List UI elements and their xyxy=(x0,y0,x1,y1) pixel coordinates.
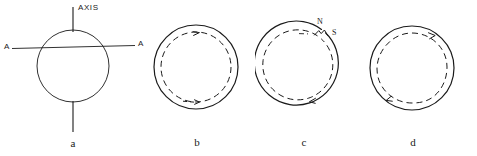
panel-a: AXIS A A a xyxy=(0,0,150,156)
outer-circle-broken xyxy=(255,21,338,105)
axis-label: AXIS xyxy=(78,4,99,12)
panel-caption-c: c xyxy=(295,137,313,148)
south-pole-label: S xyxy=(332,29,336,37)
equator-line xyxy=(12,46,135,49)
north-pole-label: N xyxy=(317,18,323,26)
rotation-arrowhead-top xyxy=(193,32,199,36)
panel-d: d xyxy=(362,0,477,156)
inner-dashed-circle-distorted xyxy=(377,33,447,103)
panel-b-drawing xyxy=(150,0,255,156)
panel-c: N S c xyxy=(255,0,362,156)
rotation-arrowhead-bottom-left xyxy=(386,96,392,101)
panel-d-drawing xyxy=(362,0,477,156)
pole-kink xyxy=(315,30,328,35)
panel-a-drawing xyxy=(0,0,150,156)
panel-caption-a: a xyxy=(64,138,82,149)
panel-caption-b: b xyxy=(188,137,206,148)
figure-canvas: AXIS A A a b xyxy=(0,0,477,156)
outer-circle xyxy=(154,25,238,109)
rotation-arrowhead-top-right xyxy=(429,33,436,39)
equator-label-right: A xyxy=(138,40,144,48)
inner-dashed-circle xyxy=(161,32,231,102)
panel-b: b xyxy=(150,0,255,156)
panel-c-drawing xyxy=(255,0,362,156)
equator-label-left: A xyxy=(4,43,10,51)
sphere-outline xyxy=(37,30,109,102)
inner-dashed-circle xyxy=(263,30,333,100)
outer-circle xyxy=(370,26,454,110)
panel-caption-d: d xyxy=(404,137,422,148)
